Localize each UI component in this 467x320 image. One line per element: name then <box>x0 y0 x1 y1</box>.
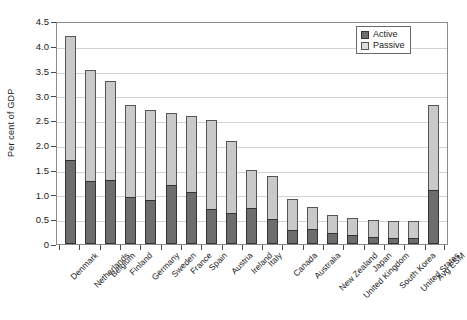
bar-column[interactable] <box>141 23 161 244</box>
x-label-column: Canada <box>282 249 302 319</box>
plot-area <box>56 22 448 245</box>
bar-segment-passive[interactable] <box>408 221 419 237</box>
bar-column[interactable] <box>323 23 343 244</box>
bar-segment-active[interactable] <box>206 209 217 244</box>
bar-segment-active[interactable] <box>267 219 278 244</box>
bar-segment-passive[interactable] <box>287 199 298 230</box>
bar-column[interactable] <box>222 23 242 244</box>
x-label-column: Japan <box>364 249 384 319</box>
bar-segment-active[interactable] <box>125 197 136 244</box>
bar-segment-active[interactable] <box>408 238 419 244</box>
chart-figure: Per cent of GDP 4.54.03.53.02.52.01.51.0… <box>0 0 467 320</box>
x-label-column: New Zealand <box>323 249 343 319</box>
bar-column[interactable] <box>363 23 383 244</box>
bar-segment-passive[interactable] <box>226 141 237 212</box>
x-label-column: Ireland <box>242 249 262 319</box>
legend-label-passive: Passive <box>373 41 405 50</box>
bar-segment-active[interactable] <box>347 235 358 244</box>
stacked-bar[interactable] <box>166 113 177 244</box>
bar-column[interactable] <box>80 23 100 244</box>
x-label-column: Austria <box>222 249 242 319</box>
bar-column[interactable] <box>383 23 403 244</box>
legend-label-active: Active <box>373 30 398 39</box>
bar-segment-passive[interactable] <box>85 70 96 181</box>
stacked-bar[interactable] <box>388 221 399 244</box>
bar-segment-passive[interactable] <box>267 176 278 220</box>
stacked-bar[interactable] <box>287 199 298 244</box>
bar-segment-passive[interactable] <box>105 81 116 179</box>
stacked-bar[interactable] <box>186 116 197 244</box>
bar-segment-passive[interactable] <box>125 105 136 197</box>
stacked-bar[interactable] <box>65 36 76 244</box>
stacked-bar[interactable] <box>246 170 257 244</box>
bar-segment-passive[interactable] <box>166 113 177 184</box>
bar-segment-active[interactable] <box>85 181 96 244</box>
bar-segment-passive[interactable] <box>186 116 197 192</box>
bar-column[interactable] <box>262 23 282 244</box>
x-axis-label: Italy <box>267 251 284 268</box>
bar-segment-passive[interactable] <box>428 105 439 189</box>
legend-item-active: Active <box>361 30 405 39</box>
bar-segment-active[interactable] <box>428 190 439 245</box>
stacked-bar[interactable] <box>428 105 439 244</box>
bar-segment-active[interactable] <box>287 230 298 244</box>
bar-segment-active[interactable] <box>388 238 399 244</box>
chart-legend: Active Passive <box>356 26 411 54</box>
legend-item-passive: Passive <box>361 41 405 50</box>
bar-segment-active[interactable] <box>368 237 379 244</box>
bar-segment-passive[interactable] <box>327 215 338 233</box>
stacked-bar[interactable] <box>267 176 278 244</box>
stacked-bar[interactable] <box>145 110 156 244</box>
bar-segment-active[interactable] <box>246 208 257 244</box>
bar-segment-passive[interactable] <box>145 110 156 200</box>
bar-segment-active[interactable] <box>186 192 197 244</box>
bar-column[interactable] <box>403 23 423 244</box>
stacked-bar[interactable] <box>206 120 217 244</box>
stacked-bar[interactable] <box>105 81 116 244</box>
bar-column[interactable] <box>201 23 221 244</box>
stacked-bar[interactable] <box>347 218 358 244</box>
stacked-bar[interactable] <box>226 141 237 244</box>
x-label-column: Denmark <box>59 249 79 319</box>
bar-segment-passive[interactable] <box>388 221 399 238</box>
stacked-bar[interactable] <box>125 105 136 244</box>
bar-segment-passive[interactable] <box>246 170 257 209</box>
bar-column[interactable] <box>282 23 302 244</box>
x-label-column: Australia <box>303 249 323 319</box>
stacked-bar[interactable] <box>327 215 338 244</box>
x-label-column: United States <box>404 249 424 319</box>
bar-segment-active[interactable] <box>105 180 116 244</box>
x-label-column: Germany <box>140 249 160 319</box>
x-label-column: Finland <box>120 249 140 319</box>
stacked-bar[interactable] <box>408 221 419 244</box>
bar-column[interactable] <box>100 23 120 244</box>
bar-column[interactable] <box>121 23 141 244</box>
bar-column[interactable] <box>302 23 322 244</box>
bar-column[interactable] <box>60 23 80 244</box>
x-label-column: United Kingdom <box>343 249 363 319</box>
stacked-bar[interactable] <box>307 207 318 244</box>
x-label-column: France <box>181 249 201 319</box>
stacked-bar[interactable] <box>368 220 379 244</box>
bar-column[interactable] <box>242 23 262 244</box>
bar-column[interactable] <box>343 23 363 244</box>
bar-segment-active[interactable] <box>166 185 177 244</box>
bar-segment-active[interactable] <box>327 233 338 244</box>
stacked-bar[interactable] <box>85 70 96 244</box>
bar-segment-passive[interactable] <box>307 207 318 229</box>
bar-segment-passive[interactable] <box>65 36 76 160</box>
legend-swatch-passive-icon <box>361 42 369 50</box>
bar-segment-passive[interactable] <box>347 218 358 235</box>
x-axis-labels: DenmarkNetherlandsBelgiumFinlandGermanyS… <box>56 249 448 319</box>
bar-segment-active[interactable] <box>145 200 156 244</box>
x-label-column: Italy <box>262 249 282 319</box>
x-label-column: South Korea <box>384 249 404 319</box>
bar-column[interactable] <box>161 23 181 244</box>
bar-column[interactable] <box>181 23 201 244</box>
bar-segment-passive[interactable] <box>206 120 217 209</box>
bar-column[interactable] <box>424 23 444 244</box>
bar-segment-active[interactable] <box>226 213 237 244</box>
bar-segment-passive[interactable] <box>368 220 379 236</box>
bar-segment-active[interactable] <box>65 160 76 244</box>
bar-segment-active[interactable] <box>307 229 318 244</box>
